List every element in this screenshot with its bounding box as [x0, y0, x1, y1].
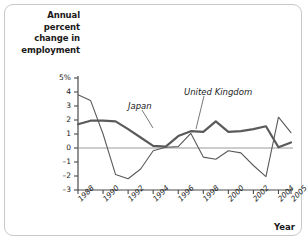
chart-figure: Annual percent change in employment Year…: [0, 0, 307, 241]
series-line-japan: [78, 95, 291, 179]
y-tick-label-3: 2: [51, 115, 71, 124]
y-tick-label-4: 1: [51, 129, 71, 138]
y-tick-label-6: –1: [51, 157, 71, 166]
series-layer: [78, 95, 291, 179]
series-line-united-kingdom: [78, 121, 291, 148]
y-tick-label-1: 4: [51, 87, 71, 96]
united-kingdom-label-leader-line: [196, 96, 204, 129]
y-tick-label-5: 0: [51, 143, 71, 152]
y-tick-label-7: –2: [51, 171, 71, 180]
united-kingdom-label: United Kingdom: [184, 87, 252, 97]
y-tick-label-0: 5%: [51, 73, 71, 82]
y-tick-label-2: 3: [51, 101, 71, 110]
japan-label: Japan: [128, 101, 152, 111]
japan-label-leader-line: [142, 110, 153, 128]
y-tick-label-8: –3: [51, 185, 71, 194]
plot-area: [0, 0, 307, 241]
